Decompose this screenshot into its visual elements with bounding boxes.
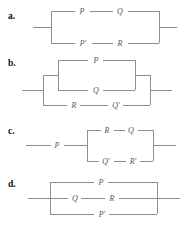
label-c-bottom-right: R': [129, 157, 137, 166]
label-d-top: P: [98, 178, 104, 187]
panel-b-diagram: P Q R Q': [0, 53, 189, 118]
label-d-bottom: P': [98, 210, 106, 219]
label-a-top-left: P: [79, 7, 85, 16]
label-a-top-right: Q: [117, 7, 123, 16]
panel-c-diagram: P R Q Q' R': [0, 118, 189, 173]
label-c-top-left: R: [104, 126, 110, 135]
label-b-inner-bottom: Q: [93, 86, 99, 95]
panel-a-diagram: P Q P' R: [0, 0, 189, 53]
label-d-middle-right: R: [109, 194, 115, 203]
panel-d-diagram: P Q R P': [0, 173, 189, 225]
label-b-bottom-left: R: [71, 101, 77, 110]
label-a-bottom-right: R: [117, 39, 123, 48]
label-c-top-right: Q: [128, 126, 134, 135]
panel-d: d. P: [0, 173, 189, 225]
label-b-inner-top: P: [93, 56, 99, 65]
label-c-lead: P: [54, 141, 60, 150]
panel-a: a. P Q P': [0, 0, 189, 53]
panel-c: c. P R Q Q: [0, 118, 189, 173]
label-b-bottom-right: Q': [112, 101, 120, 110]
label-d-middle-left: Q: [72, 194, 78, 203]
label-c-bottom-left: Q': [102, 157, 110, 166]
label-a-bottom-left: P': [79, 39, 87, 48]
panel-b: b.: [0, 53, 189, 118]
